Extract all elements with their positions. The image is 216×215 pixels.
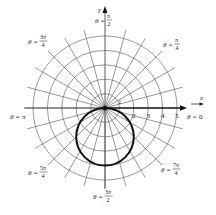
svg-text:3π: 3π bbox=[105, 189, 111, 195]
grid-spoke-210deg bbox=[35, 108, 105, 148]
svg-text:θ =: θ = bbox=[163, 41, 173, 49]
pole-origin-dot bbox=[103, 106, 107, 110]
angle-label-theta-pi-over-2: θ = π 2 bbox=[95, 13, 112, 27]
grid-spoke-255deg bbox=[84, 108, 105, 186]
tick-label-3: 3 bbox=[147, 112, 151, 120]
grid-spoke-165deg bbox=[27, 87, 105, 108]
svg-text:θ =: θ = bbox=[93, 193, 103, 201]
svg-text:3π: 3π bbox=[40, 34, 46, 40]
svg-text:θ =: θ = bbox=[161, 166, 171, 174]
svg-text:θ =: θ = bbox=[95, 17, 105, 25]
svg-text:4: 4 bbox=[175, 170, 178, 176]
svg-text:θ =: θ = bbox=[10, 113, 20, 121]
angle-label-theta-pi: θ = π bbox=[10, 113, 26, 121]
angle-label-theta-7pi-over-4: θ = 7π 4 bbox=[161, 162, 181, 176]
x-direction-arrow-icon bbox=[200, 102, 205, 106]
grid-spoke-75deg bbox=[105, 30, 126, 108]
svg-text:θ =: θ = bbox=[28, 38, 38, 46]
svg-text:5π: 5π bbox=[40, 165, 46, 171]
svg-text:θ =: θ = bbox=[28, 169, 38, 177]
grid-spoke-30deg bbox=[105, 68, 175, 108]
grid-spoke-120deg bbox=[65, 38, 105, 108]
svg-text:4: 4 bbox=[176, 45, 179, 51]
grid-spoke-300deg bbox=[105, 108, 145, 178]
angle-label-theta-3pi-over-2: θ = 3π 2 bbox=[93, 189, 113, 203]
grid-spoke-45deg bbox=[105, 51, 162, 108]
y-axis-arrow-icon bbox=[103, 6, 108, 13]
tick-label-4: 4 bbox=[161, 112, 165, 120]
grid-spoke-105deg bbox=[84, 30, 105, 108]
grid-spoke-150deg bbox=[35, 68, 105, 108]
angle-label-theta-5pi-over-4: θ = 5π 4 bbox=[28, 165, 48, 179]
polar-axis-arrow-icon bbox=[180, 105, 187, 110]
tick-label-5: 5 bbox=[175, 112, 179, 120]
svg-text:π: π bbox=[175, 37, 178, 43]
grid-spoke-285deg bbox=[105, 108, 126, 186]
svg-text:7π: 7π bbox=[173, 162, 179, 168]
polar-graph-canvas: y x 1 2 3 4 5 θ = 0 θ = π 4 θ = π bbox=[0, 0, 216, 215]
angle-label-theta-3pi-over-4: θ = 3π 4 bbox=[28, 34, 48, 48]
svg-text:0: 0 bbox=[199, 113, 203, 121]
svg-text:2: 2 bbox=[108, 21, 111, 27]
tick-label-1: 1 bbox=[118, 98, 122, 106]
angle-label-theta-0: θ = 0 bbox=[187, 113, 203, 121]
svg-text:θ =: θ = bbox=[187, 113, 197, 121]
svg-text:4: 4 bbox=[42, 173, 45, 179]
grid-spoke-240deg bbox=[65, 108, 105, 178]
x-axis-label: x bbox=[199, 94, 204, 102]
y-axis-label: y bbox=[97, 6, 102, 14]
tick-label-2: 2 bbox=[132, 112, 136, 120]
svg-text:2: 2 bbox=[107, 197, 110, 203]
polar-graph-figure: y x 1 2 3 4 5 θ = 0 θ = π 4 θ = π bbox=[0, 0, 216, 215]
grid-spoke-15deg bbox=[105, 87, 183, 108]
grid-spoke-60deg bbox=[105, 38, 145, 108]
svg-text:π: π bbox=[22, 113, 26, 121]
angle-label-theta-pi-over-4: θ = π 4 bbox=[163, 37, 180, 51]
grid-spoke-135deg bbox=[48, 51, 105, 108]
svg-text:4: 4 bbox=[42, 42, 45, 48]
svg-text:π: π bbox=[107, 13, 110, 19]
